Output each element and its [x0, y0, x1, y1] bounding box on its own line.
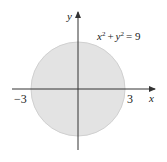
eq-plus: + — [107, 30, 113, 42]
tick-pos-3: 3 — [127, 92, 133, 106]
x-axis-label: x — [148, 92, 154, 104]
eq-exp1: 2 — [102, 30, 106, 38]
circle-diagram: y x −3 3 x2+y2= 9 — [0, 0, 167, 162]
y-axis-label: y — [66, 10, 72, 22]
equation-label: x2+y2= 9 — [96, 30, 141, 42]
eq-exp2: 2 — [121, 30, 125, 38]
tick-neg-3: −3 — [14, 92, 27, 106]
eq-equals: = 9 — [126, 30, 141, 42]
